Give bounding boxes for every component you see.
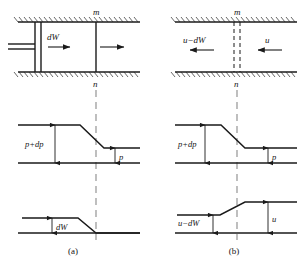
velocity-b-low-label: u−dW (178, 218, 200, 228)
label-dW-a: dW (47, 32, 61, 42)
panel-a-pressure-plot: p+dp p (18, 125, 140, 163)
pressure-a-high-label: p+dp (24, 139, 44, 149)
figure-root: dW m n (0, 0, 305, 265)
label-u-b: u (265, 35, 270, 45)
label-n-b: n (234, 79, 239, 89)
label-m-a: m (93, 7, 100, 17)
pressure-b-low-label: p (271, 152, 276, 162)
pressure-b-high-label: p+dp (177, 139, 197, 149)
label-u-minus-dW-b: u−dW (183, 35, 207, 45)
technical-figure: dW m n (0, 0, 305, 265)
panel-a-duct: dW m n (8, 7, 140, 89)
panel-b-pressure-plot: p+dp p (175, 125, 297, 163)
panel-b-velocity-plot: u−dW u (175, 202, 297, 233)
caption-b: (b) (229, 246, 240, 256)
label-n-a: n (93, 79, 98, 89)
panel-b-duct: u−dW u m n (171, 7, 297, 89)
caption-a: (a) (68, 246, 78, 256)
velocity-a-label: dW (56, 222, 68, 232)
panel-a-velocity-plot: dW (18, 218, 140, 233)
pressure-a-low-label: p (118, 152, 123, 162)
label-m-b: m (234, 7, 241, 17)
velocity-a-curve (22, 218, 140, 233)
velocity-b-high-label: u (272, 214, 276, 224)
